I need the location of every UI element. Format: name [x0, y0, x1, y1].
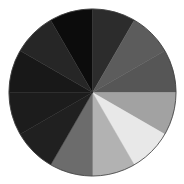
- pie-slices: [9, 9, 176, 176]
- pie-chart: [0, 0, 184, 184]
